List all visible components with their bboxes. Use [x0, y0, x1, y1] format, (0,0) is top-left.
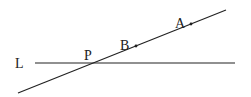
point-b-dot — [135, 45, 138, 48]
label-b: B — [120, 38, 129, 53]
label-a: A — [175, 16, 186, 31]
label-p: P — [84, 48, 92, 63]
point-a-dot — [190, 23, 193, 26]
label-l: L — [15, 56, 24, 71]
geometry-diagram: L P B A — [0, 0, 251, 97]
